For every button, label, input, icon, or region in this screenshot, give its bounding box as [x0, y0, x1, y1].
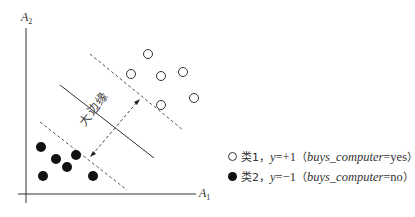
- legend-class2-text: 类2，y=−1（buys_computer=no）: [241, 168, 414, 185]
- legend: 类1，y=+1（buys_computer=yes） 类2，y=−1（buys_…: [228, 146, 415, 186]
- filled-circle-icon: [228, 172, 237, 181]
- legend-item-class1: 类1，y=+1（buys_computer=yes）: [228, 146, 415, 166]
- x-axis-label: A1: [199, 186, 210, 202]
- legend-item-class2: 类2，y=−1（buys_computer=no）: [228, 166, 415, 186]
- arrowhead-down-icon: [90, 151, 96, 157]
- y-axis-label: A2: [21, 10, 32, 26]
- open-circle-icon: [228, 152, 237, 161]
- class2-points: [36, 142, 98, 181]
- legend-class1-text: 类1，y=+1（buys_computer=yes）: [241, 148, 415, 165]
